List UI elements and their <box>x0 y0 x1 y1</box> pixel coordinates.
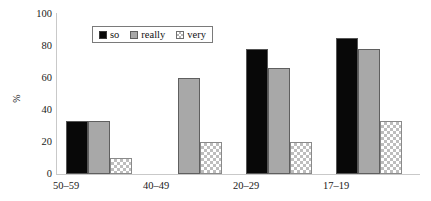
bar-so-20-29 <box>246 49 268 174</box>
x-tick-17-19: 17–19 <box>276 180 396 191</box>
legend-swatch-so-icon <box>99 31 107 39</box>
y-tick-60: 60 <box>18 73 52 83</box>
bar-very-50-59 <box>110 158 132 174</box>
bar-so-17-19 <box>336 38 358 174</box>
bar-very-20-29 <box>290 142 312 174</box>
bar-so-50-59 <box>66 121 88 174</box>
legend-item-really: really <box>130 29 165 40</box>
y-tick-100: 100 <box>18 9 52 19</box>
y-tick-40: 40 <box>18 105 52 115</box>
legend-swatch-very-icon <box>176 31 184 39</box>
y-tick-80: 80 <box>18 41 52 51</box>
y-tick-20: 20 <box>18 137 52 147</box>
bar-really-20-29 <box>268 68 290 174</box>
y-axis-ticks: 100 80 60 40 20 0 <box>0 0 52 201</box>
legend-swatch-really-icon <box>130 31 138 39</box>
x-axis-line <box>56 174 420 175</box>
legend-item-so: so <box>99 29 119 40</box>
bar-really-40-49 <box>178 78 200 174</box>
bar-really-50-59 <box>88 121 110 174</box>
y-tick-0: 0 <box>18 169 52 179</box>
bar-really-17-19 <box>358 49 380 174</box>
bar-very-40-49 <box>200 142 222 174</box>
bar-group-20-29 <box>246 14 326 174</box>
bar-chart: % 100 80 60 40 20 0 <box>0 0 431 201</box>
legend-item-very: very <box>176 29 206 40</box>
bar-group-17-19 <box>336 14 416 174</box>
legend-label-so: so <box>110 29 119 40</box>
chart-legend: so really very <box>92 26 213 43</box>
legend-label-very: very <box>187 29 206 40</box>
bar-very-17-19 <box>380 121 402 174</box>
legend-label-really: really <box>141 29 165 40</box>
